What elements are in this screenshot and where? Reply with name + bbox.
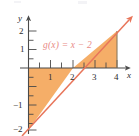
y-tick-label-2: 2 xyxy=(19,27,24,36)
y-tick-label-1: 1 xyxy=(20,45,25,54)
x-tick-label-2: 2 xyxy=(70,73,75,82)
x-tick-label-1: 1 xyxy=(48,73,53,82)
x-tick-label-3: 3 xyxy=(92,73,97,82)
y-tick-label-neg1: −1 xyxy=(13,101,23,110)
x-axis-label: x xyxy=(127,71,131,80)
x-tick-label-4: 4 xyxy=(114,73,119,82)
y-axis-label: y xyxy=(18,14,22,23)
y-tick-label-neg2: −2 xyxy=(13,125,23,134)
function-annotation-label: g(x) = x − 2 xyxy=(43,41,92,51)
function-graph-figure: y x 2 1 −1 −2 1 2 3 4 g(x) = x − 2 xyxy=(0,0,139,136)
